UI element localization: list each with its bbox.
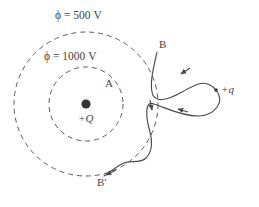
point-b-prime-label: B′ [97, 177, 107, 188]
center-charge-dot [81, 99, 90, 108]
point-a-label: A [105, 78, 113, 89]
right-charge-label: +q [221, 84, 234, 95]
physics-diagram-figure: ϕ = 500 V ϕ = 1000 V A B B′ +Q +q [0, 0, 259, 207]
equipotential-label-inner: ϕ = 1000 V [44, 51, 96, 63]
equipotential-label-outer: ϕ = 500 V [55, 10, 102, 22]
center-charge-label: +Q [78, 113, 93, 124]
path-arrow-top-loop [181, 68, 190, 74]
path-arrow-lower-loop [178, 109, 188, 112]
path-arrow-descending [150, 100, 152, 110]
diagram-canvas [0, 0, 259, 207]
point-b-label: B [159, 39, 166, 50]
